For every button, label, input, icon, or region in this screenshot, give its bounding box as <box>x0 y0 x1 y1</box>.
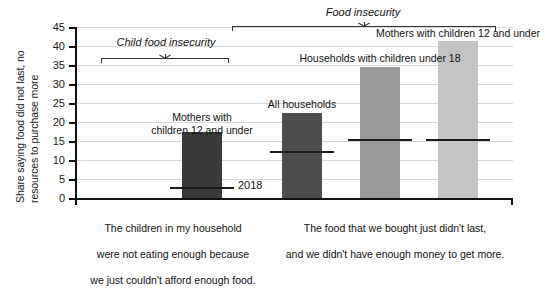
y-axis-line <box>75 27 77 199</box>
y-tick-label-25: 25 <box>39 97 65 109</box>
bar-label-line-1: Mothers with children 12 and under <box>328 27 545 40</box>
caption-line-3: we just couldn't afford enough food. <box>78 274 268 287</box>
bar-label-line-1: All households <box>242 98 362 111</box>
y-tick-45 <box>69 27 75 29</box>
x-axis-caption-left: The children in my household were not ea… <box>78 209 268 290</box>
y-tick-label-0: 0 <box>39 192 65 204</box>
bar-all-households <box>282 113 322 199</box>
y-tick-label-35: 35 <box>39 59 65 71</box>
caption-line-2: and we didn't have enough money to get m… <box>275 248 515 261</box>
bar-label-line-1: Mothers with <box>123 111 281 124</box>
x-axis-left-cap <box>75 198 77 205</box>
caption-line-2: were not eating enough because <box>78 248 268 261</box>
caption-line-1: The children in my household <box>78 222 268 235</box>
y-tick-20 <box>69 122 75 124</box>
plot-area: 2018 Mothers with children 12 and under … <box>75 27 513 198</box>
bar-label-child-mothers: Mothers with children 12 and under <box>123 111 281 136</box>
y-tick-35 <box>69 65 75 67</box>
reference-line-2018-bar-4 <box>426 139 490 141</box>
y-tick-0 <box>69 198 75 200</box>
bar-label-households-under-18: Households with children under 18 <box>260 52 500 65</box>
x-axis-line <box>75 198 513 200</box>
y-tick-label-40: 40 <box>39 40 65 52</box>
y-tick-5 <box>69 179 75 181</box>
caption-line-1: The food that we bought just didn't last… <box>275 222 515 235</box>
reference-line-2018-bar-2 <box>270 151 334 153</box>
bar-label-mothers-12-under: Mothers with children 12 and under <box>328 27 545 40</box>
y-tick-label-45: 45 <box>39 21 65 33</box>
y-tick-25 <box>69 103 75 105</box>
y-tick-label-10: 10 <box>39 154 65 166</box>
y-tick-label-15: 15 <box>39 135 65 147</box>
y-tick-40 <box>69 46 75 48</box>
y-tick-label-20: 20 <box>39 116 65 128</box>
x-axis-right-cap <box>511 198 513 205</box>
bar-label-line-2: children 12 and under <box>123 124 281 137</box>
y-tick-label-5: 5 <box>39 173 65 185</box>
group-title-food-insecurity: Food insecurity <box>303 6 423 18</box>
reference-line-label-2018: 2018 <box>238 179 262 191</box>
x-axis-caption-right: The food that we bought just didn't last… <box>275 209 515 274</box>
reference-line-2018-bar-3 <box>348 139 412 141</box>
y-tick-15 <box>69 141 75 143</box>
reference-line-2018-bar-1 <box>170 187 234 189</box>
y-tick-label-30: 30 <box>39 78 65 90</box>
y-tick-10 <box>69 160 75 162</box>
bar-households-children-under-18 <box>360 67 400 198</box>
y-tick-30 <box>69 84 75 86</box>
group-title-child-food-insecurity: Child food insecurity <box>96 36 236 48</box>
bar-label-all-households: All households <box>242 98 362 111</box>
y-axis-title-line-1: Share saying food did not last, no <box>14 51 26 203</box>
bar-label-line-1: Households with children under 18 <box>260 52 500 65</box>
